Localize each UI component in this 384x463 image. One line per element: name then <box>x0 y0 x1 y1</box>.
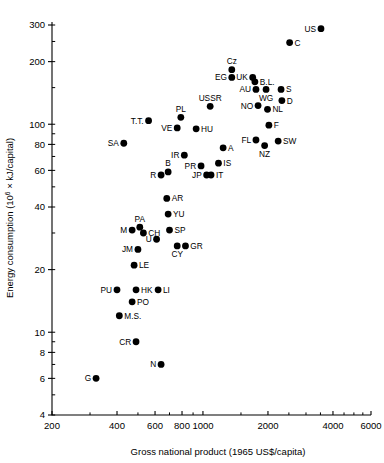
data-point <box>136 224 143 231</box>
data-point-label: VE <box>161 123 173 133</box>
x-tick-label: 400 <box>109 420 125 431</box>
data-point-label: IR <box>171 150 179 160</box>
data-point <box>158 172 165 179</box>
data-point <box>251 78 258 85</box>
y-tick-label: 80 <box>34 139 45 150</box>
x-tick-label: 6000 <box>360 420 381 431</box>
data-point <box>215 160 222 167</box>
y-tick-label: 200 <box>29 56 45 67</box>
data-point <box>133 286 140 293</box>
data-point-label: A <box>228 143 234 153</box>
data-point-label: NZ <box>259 149 270 159</box>
y-tick-label: 40 <box>34 201 45 212</box>
data-point-label: CR <box>119 337 131 347</box>
data-point-label: M.S. <box>124 311 141 321</box>
x-tick-label: 4000 <box>322 420 343 431</box>
data-point <box>165 211 172 218</box>
x-axis-title: Gross national product (1965 US$/capita) <box>131 446 306 457</box>
data-point <box>182 243 189 250</box>
data-point <box>255 102 262 109</box>
y-tick-label: 6 <box>40 373 45 384</box>
data-point-label: Cz <box>227 56 237 66</box>
data-point <box>263 86 270 93</box>
data-point-label: D <box>287 96 293 106</box>
data-point-label: HU <box>201 124 213 134</box>
data-point <box>145 117 152 124</box>
data-point <box>275 138 282 145</box>
data-point <box>228 66 235 73</box>
data-point-label: PO <box>137 297 150 307</box>
data-point-label: LI <box>163 285 170 295</box>
data-point <box>131 262 138 269</box>
data-point <box>193 125 200 132</box>
y-tick-label: 20 <box>34 264 45 275</box>
data-point-label: SP <box>174 225 186 235</box>
data-point-label: SA <box>108 138 120 148</box>
data-point-label: G <box>85 373 91 383</box>
axis-spines <box>52 22 371 415</box>
plot-canvas: 4681020406080100200300200400600800100020… <box>0 0 384 463</box>
data-point <box>163 195 170 202</box>
data-point-label: YU <box>173 209 185 219</box>
data-point-label: HK <box>141 285 153 295</box>
data-point <box>253 86 260 93</box>
data-point-label: B.L. <box>260 77 275 87</box>
data-point <box>177 114 184 121</box>
data-point <box>278 97 285 104</box>
data-point-label: R <box>150 170 156 180</box>
data-point-label: AR <box>172 193 184 203</box>
data-point-labels: USCCzEGUKB.L.AUWGSDNONLUSSRT.T.PLFVEHUFL… <box>85 24 317 384</box>
data-point <box>228 74 235 81</box>
data-point <box>120 140 127 147</box>
data-point <box>208 172 215 179</box>
data-point-label: GR <box>190 241 202 251</box>
axis-titles: Gross national product (1965 US$/capita)… <box>4 138 306 457</box>
data-point <box>116 312 123 319</box>
data-point-label: B <box>165 158 171 168</box>
data-point-label: PU <box>101 285 113 295</box>
data-point <box>165 168 172 175</box>
data-point-label: N <box>150 359 156 369</box>
x-tick-label: 200 <box>44 420 60 431</box>
data-point-label: LE <box>139 260 150 270</box>
data-point-label: PA <box>135 214 146 224</box>
data-point <box>129 227 136 234</box>
data-point-label: PL <box>176 104 187 114</box>
data-point-label: WG <box>259 93 273 103</box>
data-point <box>133 338 140 345</box>
y-tick-label: 60 <box>34 165 45 176</box>
data-point-label: FL <box>241 135 251 145</box>
x-tick-label: 2000 <box>257 420 278 431</box>
data-point <box>265 122 272 129</box>
data-point-label: AU <box>240 84 252 94</box>
data-point-label: EG <box>215 72 227 82</box>
data-point-label: S <box>286 84 292 94</box>
data-point <box>155 286 162 293</box>
y-tick-label: 300 <box>29 19 45 30</box>
axes: 4681020406080100200300200400600800100020… <box>29 19 381 431</box>
y-tick-label: 100 <box>29 119 45 130</box>
x-tick-label: 1000 <box>192 420 213 431</box>
data-point-label: USSR <box>199 93 222 103</box>
data-point-label: NL <box>272 104 283 114</box>
data-points <box>93 25 325 381</box>
data-point <box>174 243 181 250</box>
data-point-label: JP <box>192 170 202 180</box>
y-axis-title: Energy consumption (106 × kJ/capital) <box>4 138 16 298</box>
data-point <box>93 375 100 382</box>
y-tick-label: 4 <box>40 409 45 420</box>
data-point <box>278 86 285 93</box>
data-point <box>166 227 173 234</box>
data-point <box>114 286 121 293</box>
data-point <box>198 163 205 170</box>
data-point <box>220 144 227 151</box>
data-point-label: U <box>146 234 152 244</box>
data-point <box>264 106 271 113</box>
data-point <box>174 125 181 132</box>
y-tick-label: 8 <box>40 347 45 358</box>
data-point-label: US <box>305 24 317 34</box>
data-point-label: CY <box>171 249 183 259</box>
x-tick-label: 800 <box>174 420 190 431</box>
data-point-label: IT <box>216 170 223 180</box>
data-point-label: IS <box>223 158 231 168</box>
